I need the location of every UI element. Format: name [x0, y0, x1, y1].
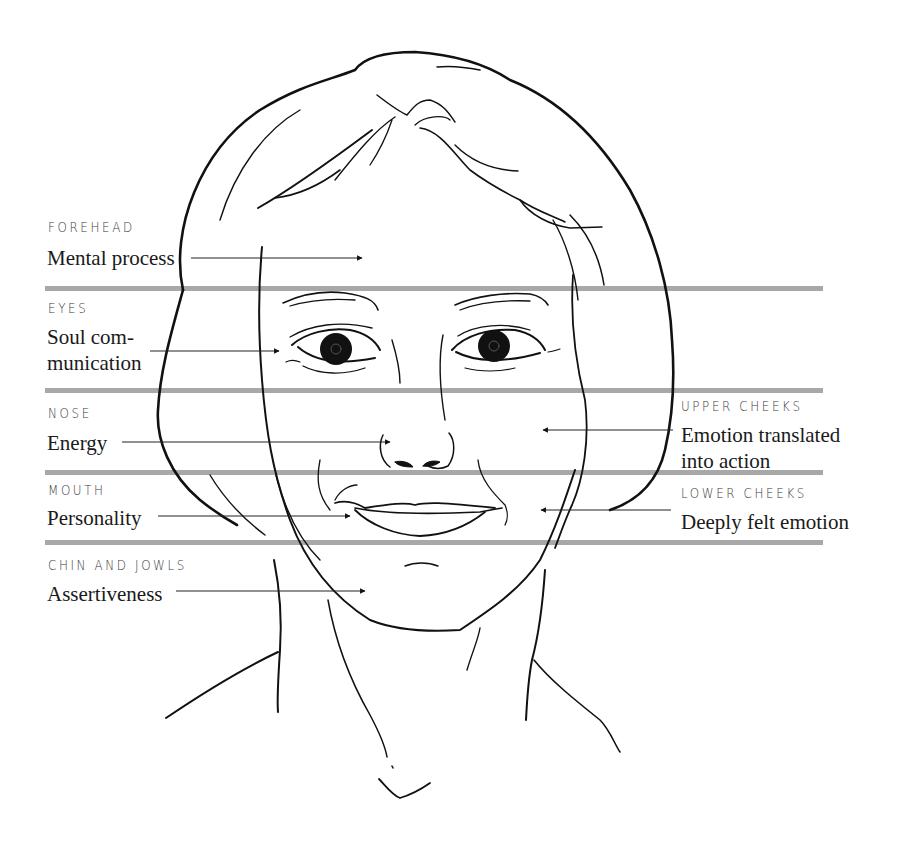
label-nose-desc: Energy: [47, 432, 107, 455]
label-chin-title: CHIN AND JOWLS: [48, 557, 187, 573]
label-forehead-title: FOREHEAD: [48, 219, 135, 235]
label-mouth-title: MOUTH: [48, 482, 106, 498]
label-lower-cheeks-desc: Deeply felt emotion: [681, 511, 849, 534]
label-chin-desc: Assertiveness: [47, 583, 162, 606]
label-upper-cheeks-desc-1: Emotion translated: [681, 424, 840, 447]
label-eyes-desc-2: munication: [47, 352, 141, 375]
label-upper-cheeks-title: UPPER CHEEKS: [681, 398, 803, 414]
label-mouth-desc: Personality: [47, 507, 142, 530]
label-nose-title: NOSE: [48, 405, 92, 421]
label-lower-cheeks-title: LOWER CHEEKS: [681, 485, 807, 501]
label-forehead-desc: Mental process: [47, 247, 175, 270]
face-reading-diagram: FOREHEAD Mental process EYES Soul com- m…: [0, 0, 903, 847]
label-upper-cheeks-desc-2: into action: [681, 450, 770, 473]
label-eyes-desc-1: Soul com-: [47, 326, 134, 349]
label-eyes-title: EYES: [48, 300, 88, 316]
